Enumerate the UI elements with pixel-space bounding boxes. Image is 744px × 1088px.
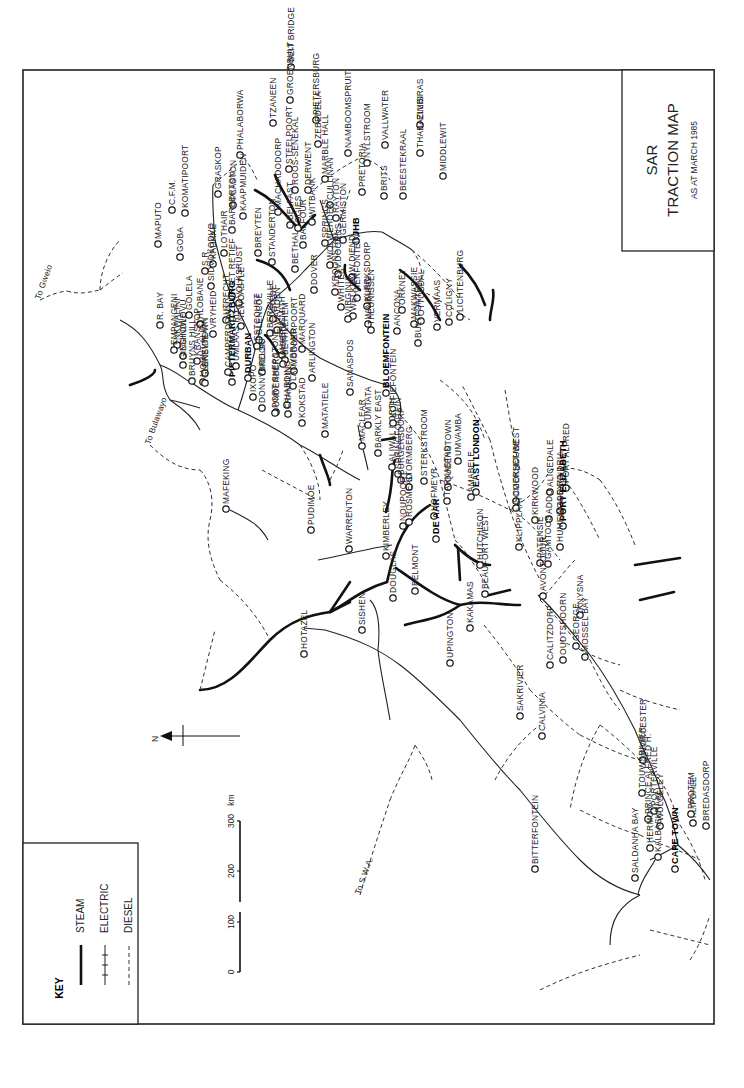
station-label: ARLINGTON: [307, 322, 317, 373]
station: MIDDLEWIT: [438, 122, 448, 179]
station: MAPUTO: [153, 202, 163, 247]
station-marker-icon: [308, 527, 314, 533]
station-marker-icon: [400, 523, 406, 529]
station: BRITS: [379, 165, 389, 199]
station-label: FRANKLIN: [283, 366, 293, 409]
station-label: DE AAR: [431, 498, 441, 534]
station-marker-icon: [690, 820, 696, 826]
station: STANDERTON: [267, 198, 277, 265]
north-arrow-icon: N: [150, 725, 240, 746]
station: GRASKOP: [213, 146, 223, 197]
station-label: PHALABORWA: [235, 89, 245, 150]
station-marker-icon: [672, 866, 678, 872]
station: BITTERFONTEIN: [530, 795, 540, 872]
station-marker-icon: [573, 643, 579, 649]
station-marker-icon: [382, 142, 388, 148]
station-label: SISHEN: [357, 593, 367, 625]
station: TZANEEN: [268, 78, 278, 127]
station: ROOS-SENEKAL: [290, 116, 300, 193]
station-marker-icon: [532, 866, 538, 872]
station-label: UPINGTON: [445, 612, 455, 658]
station-marker-icon: [434, 324, 440, 330]
station-label: C.F.M.: [167, 180, 177, 205]
station: CALITZDORP: [545, 605, 555, 668]
station-marker-icon: [250, 394, 256, 400]
station: HOTAZEL: [299, 609, 309, 657]
station-label: PORT SHEPSTONE: [270, 328, 280, 408]
scale-tick-300: 300: [226, 814, 236, 828]
station-label: BULTFONTEIN: [413, 278, 423, 338]
station-label: CALITZDORP: [545, 605, 555, 660]
station-marker-icon: [189, 378, 195, 384]
station: PUDIMOE: [306, 484, 316, 533]
station-label: BRITS: [379, 165, 389, 191]
station-marker-icon: [539, 733, 545, 739]
station: BRUYNS HILL: [187, 319, 197, 384]
station-label: PROTEM: [686, 772, 696, 809]
station: THEUNISSEN: [366, 269, 376, 333]
station: PORT SHEPSTONE: [270, 328, 280, 416]
station-label: ADDO: [544, 489, 554, 514]
station-label: VALLWATER: [380, 90, 390, 140]
station: DONNYBROOK: [257, 340, 267, 411]
station: KIRKWOOD: [530, 467, 540, 523]
station-label: ESTCOURT: [252, 293, 262, 341]
station-label: ORKNEY: [397, 268, 407, 305]
station-marker-icon: [582, 654, 588, 660]
station: KAAPMUIDEN: [238, 154, 248, 220]
station-marker-icon: [517, 713, 523, 719]
station-label: UMVAMBA: [453, 413, 463, 456]
station-marker-icon: [292, 266, 298, 272]
station-marker-icon: [359, 189, 365, 195]
station-marker-icon: [225, 369, 231, 375]
station-marker-icon: [202, 380, 208, 386]
station: BERGVILLE: [265, 279, 275, 336]
station-marker-icon: [359, 443, 365, 449]
station-label: PRETORIA: [357, 143, 367, 187]
title-date: AS AT MARCH 1985: [689, 121, 699, 199]
station-label: KIMBERLEY: [381, 501, 391, 551]
scale-tick-200: 200: [226, 864, 236, 878]
station-label: GLENSIDE: [200, 334, 210, 378]
station-marker-icon: [171, 347, 177, 353]
station: SISHEN: [357, 593, 367, 634]
station-label: PUDIMOE: [306, 484, 316, 525]
scale-tick-0: 0: [226, 969, 236, 974]
station-marker-icon: [375, 450, 381, 456]
station-marker-icon: [285, 411, 291, 417]
station-marker-icon: [477, 562, 483, 568]
station-label: BREYTEN: [253, 207, 263, 248]
station: BULTFONTEIN: [413, 278, 423, 346]
station: SAKRIVIER: [515, 665, 525, 720]
station-marker-icon: [233, 363, 239, 369]
station: DERWENT: [303, 141, 313, 193]
station-marker-icon: [229, 227, 235, 233]
station: COLIGNY: [444, 278, 454, 326]
station-label: BREDASDORP: [701, 760, 711, 821]
station-label: THABAZIMBI: [415, 96, 425, 148]
station-label: SOMERSET WEST: [511, 427, 521, 503]
station: PRETORIA: [357, 143, 367, 196]
station: MAFEKING: [221, 459, 231, 513]
station: UMLAAS RD.: [231, 308, 241, 369]
station-label: GROENBULT: [285, 42, 295, 95]
external-link-label: To S.W.A.: [352, 856, 375, 896]
station: HUTCHISON: [475, 508, 485, 568]
station: OUDTSHOORN: [558, 593, 568, 664]
station-label: MOSSEL BAY: [580, 597, 590, 652]
station-marker-icon: [394, 328, 400, 334]
station-marker-icon: [415, 340, 421, 346]
station: VERMAAS: [432, 279, 442, 330]
station-marker-icon: [399, 307, 405, 313]
station-marker-icon: [299, 420, 305, 426]
station-label: MACLEAR: [357, 399, 367, 441]
station: KALBASKRAAL: [653, 790, 663, 861]
station-label: BELMONT: [410, 544, 420, 586]
station-label: GOBA: [175, 227, 185, 252]
station-label: SALDANHA BAY: [630, 807, 640, 873]
station-marker-icon: [455, 458, 461, 464]
station-marker-icon: [540, 593, 546, 599]
key-label-electric: ELECTRIC: [99, 884, 110, 933]
station-marker-icon: [457, 314, 463, 320]
station-marker-icon: [547, 662, 553, 668]
